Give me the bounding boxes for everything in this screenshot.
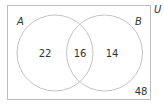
set-b-label: B (135, 16, 142, 27)
universe-label: U (154, 4, 162, 15)
venn-diagram: U A B 22 16 14 48 (0, 0, 164, 108)
set-a-label: A (16, 16, 24, 27)
intersection-count: 16 (74, 48, 87, 59)
set-b-only-count: 14 (106, 48, 119, 59)
outside-count: 48 (135, 86, 148, 97)
set-a-only-count: 22 (39, 48, 52, 59)
